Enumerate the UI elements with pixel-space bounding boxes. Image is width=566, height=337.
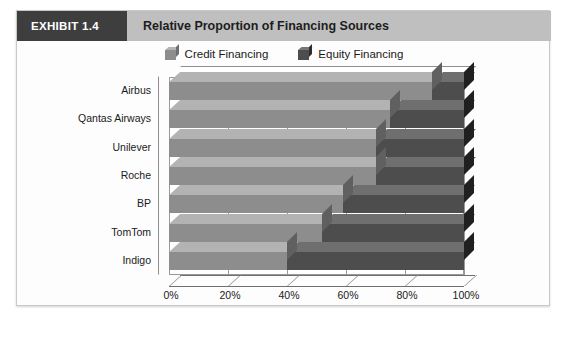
plot-area <box>169 77 464 275</box>
legend-item-equity-financing: Equity Financing <box>298 47 403 60</box>
bar-row <box>169 139 464 157</box>
bar-segment-top-face <box>169 185 354 195</box>
bar-row <box>169 195 464 213</box>
bar-row <box>169 167 464 185</box>
bar-segment-side-face <box>464 90 474 118</box>
bar-segment-side-face <box>464 147 474 175</box>
x-axis-front-line <box>169 286 464 287</box>
exhibit-card: EXHIBIT 1.4 Relative Proportion of Finan… <box>16 10 550 306</box>
bar-segment-side-face <box>464 175 474 203</box>
x-axis-tick-label: 100% <box>453 289 480 301</box>
bar-segment-front-face <box>169 110 390 128</box>
bar-segment <box>169 252 287 270</box>
bar-segment-front-face <box>322 224 464 242</box>
bar-segment <box>169 139 376 157</box>
x-axis-tick <box>405 275 418 286</box>
bar-segment-top-face <box>343 185 475 195</box>
bar-series-container <box>169 77 464 275</box>
y-axis-label: Roche <box>17 169 151 181</box>
exhibit-number-tag: EXHIBIT 1.4 <box>17 11 127 41</box>
x-axis-tick-label: 80% <box>396 289 417 301</box>
chart-legend: Credit Financing Equity Financing <box>17 47 551 60</box>
exhibit-header: EXHIBIT 1.4 Relative Proportion of Finan… <box>17 11 551 41</box>
bar-segment-front-face <box>169 252 287 270</box>
bar-segment-front-face <box>287 252 464 270</box>
bar-segment-side-face <box>464 232 474 260</box>
bar-row <box>169 224 464 242</box>
bar-segment <box>376 139 465 157</box>
bar-segment-top-face <box>169 157 387 167</box>
x-axis-tick-labels: 0%20%40%60%80%100% <box>169 289 489 305</box>
bar-segment-side-face <box>464 204 474 232</box>
bar-segment <box>287 252 464 270</box>
cube-swatch-icon <box>165 47 178 60</box>
bar-segment-front-face <box>169 139 376 157</box>
bar-segment-top-face <box>390 100 475 110</box>
bar-segment-front-face <box>169 224 322 242</box>
y-axis-label: TomTom <box>17 226 151 238</box>
x-axis-tick-label: 20% <box>219 289 240 301</box>
x-axis-tick-label: 60% <box>337 289 358 301</box>
exhibit-title: Relative Proportion of Financing Sources <box>127 11 551 41</box>
x-axis-tick <box>346 275 359 286</box>
bar-segment-front-face <box>376 167 465 185</box>
bar-segment-top-face <box>169 72 443 82</box>
y-axis-label: Unilever <box>17 141 151 153</box>
bar-segment-side-face <box>464 119 474 147</box>
bar-segment-top-face <box>376 157 476 167</box>
exhibit-page: EXHIBIT 1.4 Relative Proportion of Finan… <box>0 0 566 337</box>
y-axis-label: Qantas Airways <box>17 112 151 124</box>
bar-segment-top-face <box>169 242 298 252</box>
bar-segment <box>390 110 464 128</box>
x-axis-tick <box>464 275 477 286</box>
legend-label-credit-financing: Credit Financing <box>185 48 269 60</box>
bar-segment-front-face <box>376 139 465 157</box>
bar-row <box>169 82 464 100</box>
bar-segment-front-face <box>343 195 464 213</box>
bar-segment <box>376 167 465 185</box>
bar-segment-top-face <box>169 100 401 110</box>
x-axis-back-line <box>180 275 475 276</box>
bar-segment <box>322 224 464 242</box>
y-axis-label: BP <box>17 197 151 209</box>
bar-segment-top-face <box>376 129 476 139</box>
plot-left-wall <box>158 66 169 275</box>
bar-segment <box>169 224 322 242</box>
x-axis-tick <box>228 275 241 286</box>
y-axis-label: Indigo <box>17 254 151 266</box>
x-axis-tick-label: 40% <box>278 289 299 301</box>
bar-segment <box>169 110 390 128</box>
chart-area: AirbusQantas AirwaysUnileverRocheBPTomTo… <box>17 69 551 307</box>
bar-row <box>169 252 464 270</box>
bar-row <box>169 110 464 128</box>
bar-segment-top-face <box>287 242 475 252</box>
bar-segment <box>343 195 464 213</box>
y-axis-label: Airbus <box>17 84 151 96</box>
bar-segment <box>169 195 343 213</box>
x-axis-tick <box>287 275 300 286</box>
bar-segment-front-face <box>169 195 343 213</box>
legend-label-equity-financing: Equity Financing <box>318 48 403 60</box>
cube-swatch-icon <box>298 47 311 60</box>
bar-segment-front-face <box>390 110 464 128</box>
bar-segment-top-face <box>169 129 387 139</box>
y-axis-category-labels: AirbusQantas AirwaysUnileverRocheBPTomTo… <box>17 69 157 274</box>
x-axis-tick-label: 0% <box>163 289 178 301</box>
bar-segment-top-face <box>169 214 333 224</box>
x-axis-tick <box>169 275 182 286</box>
bar-segment-top-face <box>322 214 475 224</box>
legend-item-credit-financing: Credit Financing <box>165 47 269 60</box>
x-axis-base <box>169 275 475 287</box>
